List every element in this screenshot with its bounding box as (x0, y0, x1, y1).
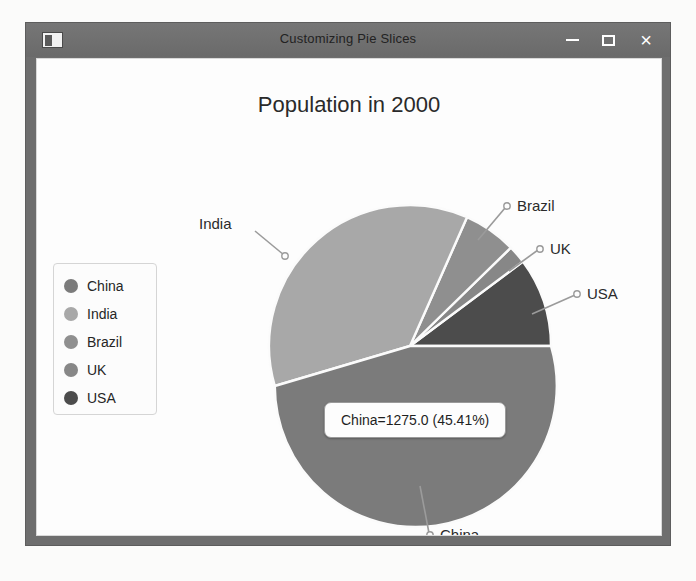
leader-dot-brazil (504, 203, 510, 209)
legend-swatch-brazil (64, 335, 78, 349)
leader-dot-usa (574, 291, 580, 297)
legend-item-india[interactable]: India (64, 300, 156, 328)
legend-label-china: China (87, 278, 124, 294)
leader-dot-china (427, 532, 433, 536)
legend-item-usa[interactable]: USA (64, 384, 156, 412)
leader-line-india (255, 231, 284, 255)
legend-label-brazil: Brazil (87, 334, 122, 350)
pie-label-brazil: Brazil (517, 197, 555, 214)
maximize-button[interactable] (590, 23, 626, 57)
pie-label-uk: UK (550, 240, 571, 257)
page-background: Customizing Pie Slices × Population in 2… (0, 0, 696, 581)
legend-item-uk[interactable]: UK (64, 356, 156, 384)
minimize-button[interactable] (554, 23, 590, 57)
legend-swatch-uk (64, 363, 78, 377)
legend-label-usa: USA (87, 390, 116, 406)
legend-item-china[interactable]: China (64, 272, 156, 300)
minimize-icon (566, 39, 579, 41)
legend: China India Brazil UK USA (53, 263, 157, 415)
pie-slice-tooltip: China=1275.0 (45.41%) (324, 402, 506, 438)
pie-label-india: India (199, 215, 232, 232)
maximize-icon (602, 35, 615, 46)
pie-label-china: China (440, 526, 480, 536)
legend-label-uk: UK (87, 362, 106, 378)
close-button[interactable]: × (628, 23, 664, 57)
application-window: Customizing Pie Slices × Population in 2… (25, 22, 671, 546)
legend-swatch-usa (64, 391, 78, 405)
legend-label-india: India (87, 306, 117, 322)
legend-item-brazil[interactable]: Brazil (64, 328, 156, 356)
close-icon: × (640, 30, 652, 50)
leader-dot-uk (537, 246, 543, 252)
title-bar[interactable]: Customizing Pie Slices × (26, 23, 670, 57)
legend-swatch-china (64, 279, 78, 293)
pie-label-usa: USA (587, 285, 618, 302)
chart-client-area: Population in 2000 India (36, 58, 662, 536)
legend-swatch-india (64, 307, 78, 321)
leader-dot-india (282, 253, 288, 259)
